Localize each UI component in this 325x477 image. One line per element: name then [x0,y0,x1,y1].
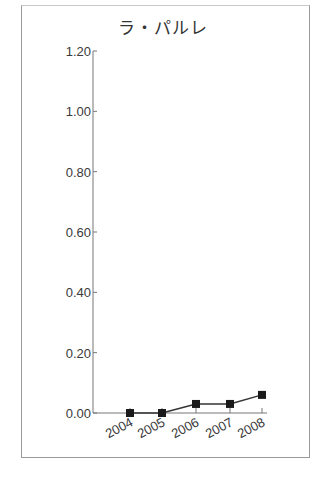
x-tick-label: 2005 [135,414,168,441]
line-chart: 0.000.200.400.600.801.001.20200420052006… [0,0,325,477]
x-tick-label: 2007 [203,414,236,441]
x-tick-label: 2006 [169,414,202,441]
x-tick-label: 2004 [103,414,136,441]
y-tick-label: 0.60 [66,225,91,240]
data-point-marker [226,400,234,408]
data-point-marker [126,409,134,417]
data-point-marker [192,400,200,408]
y-tick-label: 0.00 [66,406,91,421]
y-tick-label: 0.80 [66,165,91,180]
data-point-marker [258,391,266,399]
y-tick-label: 0.20 [66,346,91,361]
y-tick-label: 0.40 [66,285,91,300]
x-tick-label: 2008 [235,414,268,441]
y-tick-label: 1.20 [66,44,91,59]
y-tick-label: 1.00 [66,104,91,119]
data-point-marker [158,409,166,417]
